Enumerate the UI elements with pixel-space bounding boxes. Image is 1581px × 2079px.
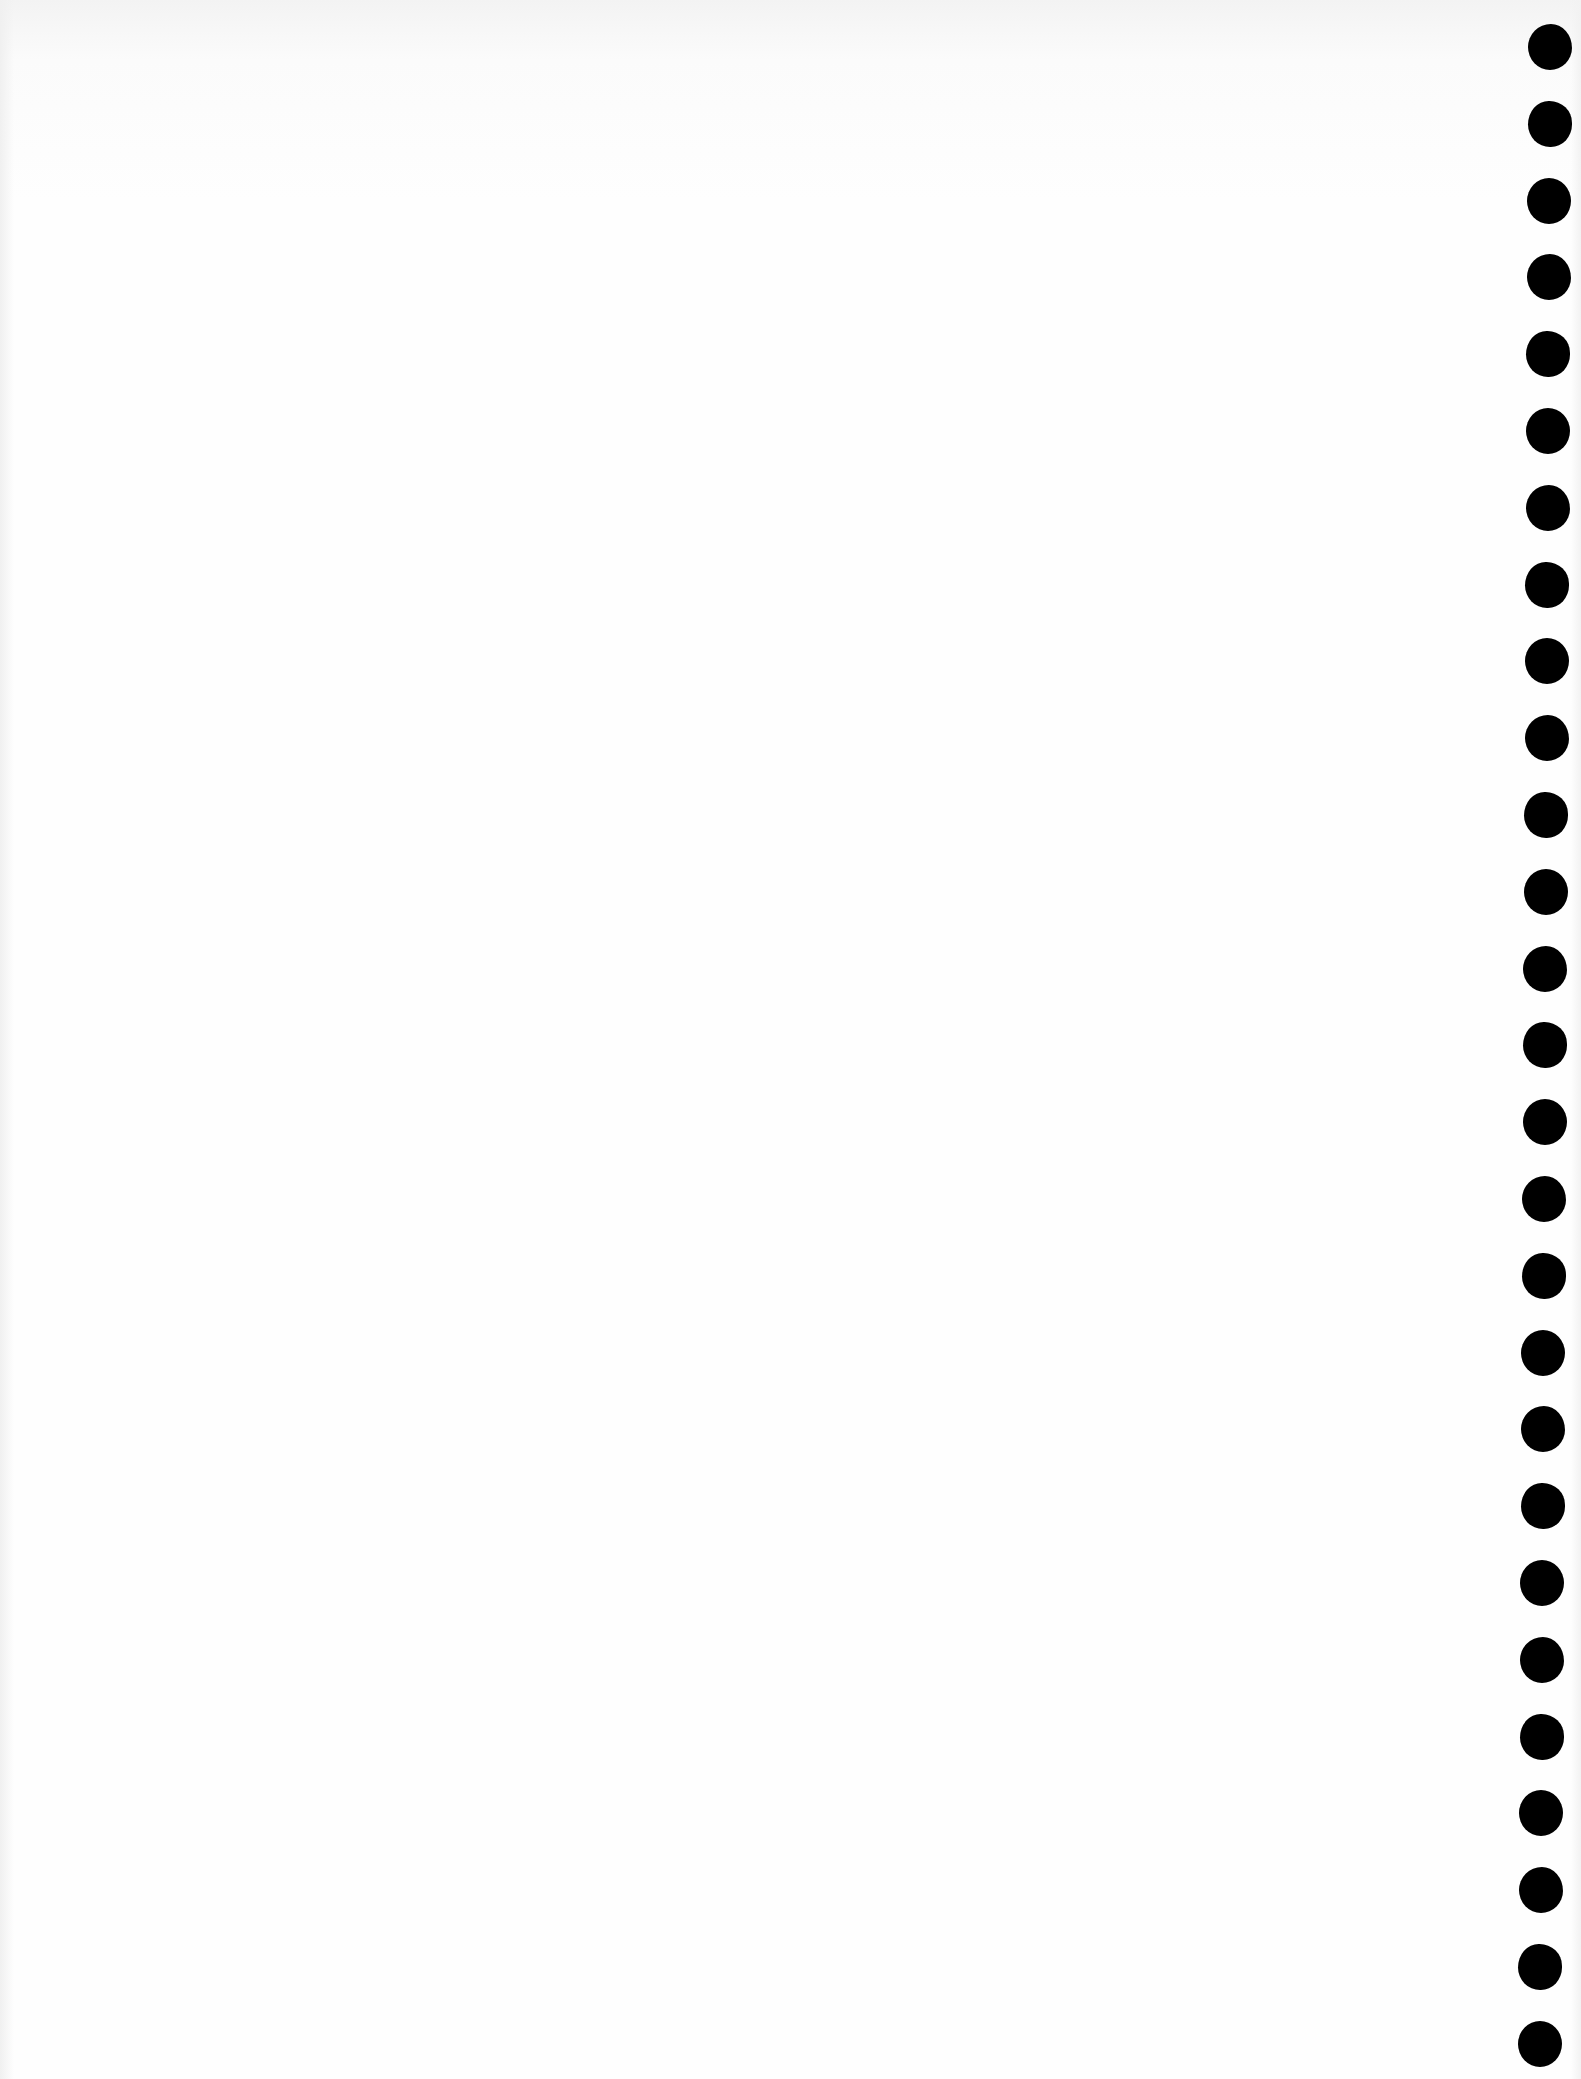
punch-hole xyxy=(1526,331,1570,377)
punch-hole xyxy=(1527,254,1571,300)
punch-hole xyxy=(1520,1714,1564,1760)
punch-hole xyxy=(1521,1406,1565,1452)
punch-hole xyxy=(1523,946,1567,992)
punch-hole xyxy=(1528,24,1572,70)
punch-hole xyxy=(1518,1944,1562,1990)
punch-hole xyxy=(1524,869,1568,915)
punch-hole xyxy=(1523,1022,1567,1068)
punch-hole xyxy=(1526,408,1570,454)
punch-hole xyxy=(1522,1176,1566,1222)
punch-hole xyxy=(1522,1253,1566,1299)
punch-hole xyxy=(1519,1790,1563,1836)
punch-hole xyxy=(1525,638,1569,684)
punch-hole xyxy=(1521,1483,1565,1529)
punch-hole xyxy=(1523,1099,1567,1145)
punch-hole xyxy=(1527,178,1571,224)
punch-hole xyxy=(1521,1330,1565,1376)
punch-hole xyxy=(1525,715,1569,761)
punch-hole xyxy=(1525,562,1569,608)
punch-hole xyxy=(1520,1637,1564,1683)
scanned-page xyxy=(0,0,1581,2079)
punch-hole xyxy=(1520,1560,1564,1606)
punch-hole-column xyxy=(0,0,1581,2079)
punch-hole xyxy=(1528,101,1572,147)
punch-hole xyxy=(1526,485,1570,531)
punch-hole xyxy=(1519,1867,1563,1913)
punch-hole xyxy=(1518,2021,1562,2067)
punch-hole xyxy=(1524,792,1568,838)
